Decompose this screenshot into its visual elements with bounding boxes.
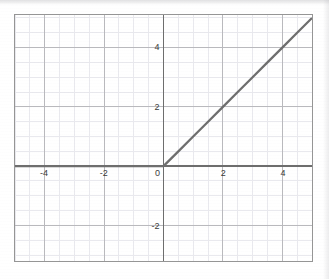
series-relu bbox=[15, 15, 312, 261]
plot-area bbox=[14, 14, 313, 262]
figure-canvas: -4-2024-224 bbox=[0, 0, 329, 279]
right-edge-artifact bbox=[323, 0, 329, 279]
top-edge-artifact bbox=[0, 0, 329, 5]
